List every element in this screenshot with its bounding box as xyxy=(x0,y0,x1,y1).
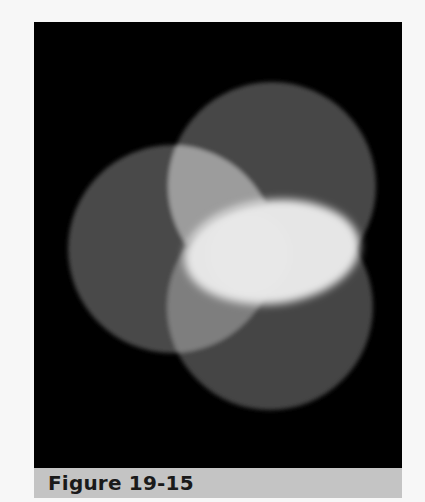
light-circles-photo xyxy=(34,22,402,468)
overlapping-light-circles xyxy=(34,22,402,468)
caption-bar: Figure 19-15 xyxy=(34,468,402,498)
figure-caption: Figure 19-15 xyxy=(48,470,194,496)
figure: Figure 19-15 xyxy=(34,22,402,498)
